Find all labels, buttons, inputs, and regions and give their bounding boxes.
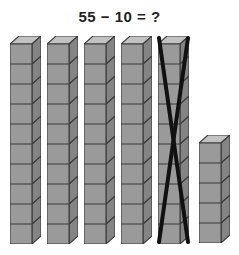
cube: [158, 36, 189, 64]
base-ten-blocks-model: [0, 0, 239, 255]
cube: [84, 36, 115, 64]
cube: [10, 36, 41, 64]
worksheet-canvas: 55 − 10 = ?: [0, 0, 239, 255]
rod-of-ten[interactable]: [158, 36, 189, 244]
rod-of-ten[interactable]: [84, 36, 115, 244]
cube: [47, 36, 78, 64]
rod-of-ten[interactable]: [121, 36, 152, 244]
cube: [121, 36, 152, 64]
rod-of-ten[interactable]: [10, 36, 41, 244]
unit-cube-stack[interactable]: [199, 135, 230, 243]
rod-of-ten[interactable]: [47, 36, 78, 244]
cube: [199, 135, 230, 163]
